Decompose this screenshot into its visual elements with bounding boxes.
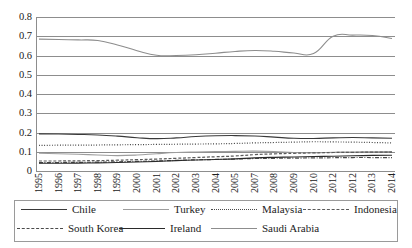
plot-area [36,17,395,171]
y-tick-label: 0.3 [19,108,32,118]
series-line-chile [39,134,392,139]
gridline [36,171,395,172]
legend-label: Turkey [174,203,205,215]
y-tick-label: 0.4 [19,89,32,99]
legend-label: Ireland [170,222,201,234]
x-tick-label: 2012 [328,173,338,193]
legend-row: ChileTurkeyMalaysiaIndonesia [15,203,397,221]
plot-area-wrapper: 0.80.70.60.50.40.30.20.10 19951996199719… [0,0,412,200]
legend-item-south-korea[interactable]: South Korea [17,222,123,234]
legend-item-malaysia[interactable]: Malaysia [211,203,302,215]
legend-label: South Korea [68,222,123,234]
x-tick-label: 2014 [387,173,397,193]
y-tick-label: 0.5 [19,70,32,80]
x-tick-label: 1999 [112,173,122,193]
legend-swatch-icon [119,223,165,233]
legend-label: Saudi Arabia [262,222,319,234]
x-tick-label: 2004 [211,173,221,193]
legend-item-ireland[interactable]: Ireland [119,222,201,234]
x-tick-label: 2001 [152,173,162,193]
legend-item-turkey[interactable]: Turkey [123,203,205,215]
chart-figure: 0.80.70.60.50.40.30.20.10 19951996199719… [0,0,412,248]
y-tick-label: 0 [27,166,32,176]
x-tick-label: 1998 [93,173,103,193]
legend-label: Chile [72,203,96,215]
legend-label: Malaysia [262,203,302,215]
series-line-turkey [39,151,392,155]
series-line-saudi-arabia [39,34,392,56]
x-tick-label: 1995 [34,173,44,193]
chart-legend: ChileTurkeyMalaysiaIndonesiaSouth KoreaI… [14,200,398,242]
series-line-ireland [39,155,392,163]
y-axis-tick-labels: 0.80.70.60.50.40.30.20.10 [0,0,34,200]
x-tick-label: 2000 [132,173,142,193]
y-tick-label: 0.8 [19,12,32,22]
x-tick-label: 2009 [289,173,299,193]
y-tick-label: 0.7 [19,31,32,41]
x-tick-label: 2002 [171,173,181,193]
legend-label: Indonesia [354,203,397,215]
x-tick-label: 1997 [73,173,83,193]
y-tick-label: 0.2 [19,128,32,138]
legend-item-indonesia[interactable]: Indonesia [303,203,397,215]
legend-swatch-icon [211,223,257,233]
x-tick-label: 2008 [269,173,279,193]
series-line-south-korea [39,158,392,163]
legend-item-saudi-arabia[interactable]: Saudi Arabia [211,222,319,234]
legend-swatch-icon [123,204,169,214]
legend-row: South KoreaIrelandSaudi Arabia [15,222,397,240]
x-tick-label: 1996 [54,173,64,193]
x-tick-label: 2007 [250,173,260,193]
legend-swatch-icon [21,204,67,214]
x-tick-label: 2010 [309,173,319,193]
legend-swatch-icon [17,223,63,233]
legend-item-chile[interactable]: Chile [21,203,96,215]
x-tick-label: 2013 [367,173,377,193]
x-tick-label: 2012 [348,173,358,193]
y-tick-label: 0.1 [19,147,32,157]
y-tick-label: 0.6 [19,51,32,61]
x-tick-label: 2003 [191,173,201,193]
x-tick-label: 2005 [230,173,240,193]
legend-swatch-icon [303,204,349,214]
series-line-malaysia [39,142,392,146]
legend-swatch-icon [211,204,257,214]
series-lines [36,17,395,171]
